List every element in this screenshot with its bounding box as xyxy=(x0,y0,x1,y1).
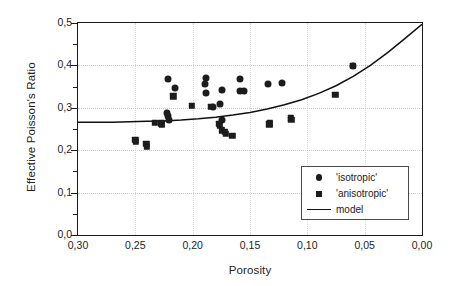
data-point-isotropic xyxy=(165,75,172,82)
data-point-anisotropic xyxy=(170,93,176,99)
data-point-anisotropic xyxy=(229,133,235,139)
x-tick-label: 0,15 xyxy=(230,239,270,251)
legend-item-circle: 'isotropic' xyxy=(302,170,408,186)
data-point-isotropic xyxy=(279,79,286,86)
data-point-anisotropic xyxy=(133,139,139,145)
data-point-isotropic xyxy=(203,89,210,96)
data-point-anisotropic xyxy=(267,120,273,126)
legend-label: 'isotropic' xyxy=(336,172,377,183)
data-point-isotropic xyxy=(217,100,224,107)
y-tick-label: 0,3 xyxy=(32,101,72,113)
data-point-anisotropic xyxy=(288,116,294,122)
legend-line-icon xyxy=(302,209,336,210)
x-tick-label: 0,10 xyxy=(287,239,327,251)
legend-square-icon xyxy=(316,191,322,197)
data-point-anisotropic xyxy=(332,91,338,97)
data-point-anisotropic xyxy=(159,121,165,127)
data-point-anisotropic xyxy=(208,103,214,109)
x-tick-label: 0,30 xyxy=(58,239,98,251)
data-point-anisotropic xyxy=(188,103,194,109)
data-point-isotropic xyxy=(166,116,173,123)
legend-item-square: 'anisotropic' xyxy=(302,186,408,202)
data-point-isotropic xyxy=(240,87,247,94)
legend-square-icon xyxy=(302,191,336,197)
x-tick-label: 0,00 xyxy=(402,239,442,251)
data-point-anisotropic xyxy=(349,63,355,69)
legend: 'isotropic''anisotropic'model xyxy=(301,166,409,220)
legend-line-icon xyxy=(307,209,331,210)
x-tick-label: 0,25 xyxy=(115,239,155,251)
x-tick-label: 0,05 xyxy=(345,239,385,251)
y-axis-title: Effective Poisson's Ratio xyxy=(25,17,37,237)
y-tick-label: 0,1 xyxy=(32,186,72,198)
y-tick-label: 0,5 xyxy=(32,16,72,28)
y-tick-label: 0,2 xyxy=(32,143,72,155)
data-point-isotropic xyxy=(236,75,243,82)
data-point-isotropic xyxy=(202,80,209,87)
y-tick-label: 0,4 xyxy=(32,58,72,70)
x-tick-label: 0,20 xyxy=(173,239,213,251)
legend-circle-icon xyxy=(316,174,323,181)
data-point-anisotropic xyxy=(144,144,150,150)
legend-label: model xyxy=(336,204,363,215)
data-point-isotropic xyxy=(218,86,225,93)
x-axis-title: Porosity xyxy=(77,264,423,276)
legend-label: 'anisotropic' xyxy=(336,188,388,199)
chart-figure: Effective Poisson's Ratio Porosity 0,00,… xyxy=(0,0,457,286)
data-point-isotropic xyxy=(171,85,178,92)
data-point-isotropic xyxy=(264,80,271,87)
legend-item-model: model xyxy=(302,202,408,218)
legend-circle-icon xyxy=(302,174,336,181)
